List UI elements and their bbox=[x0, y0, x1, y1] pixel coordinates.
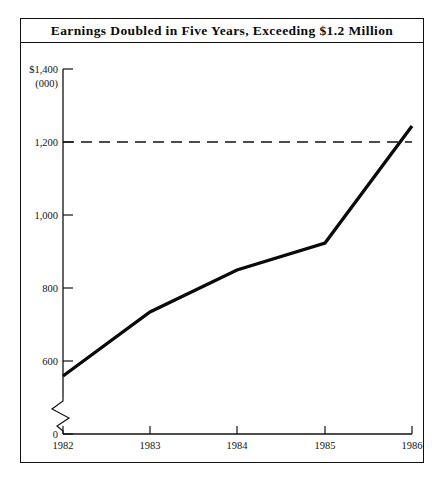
y-axis-label-1000: 1,000 bbox=[34, 210, 58, 221]
x-axis-label-1985: 1985 bbox=[315, 440, 336, 451]
y-axis-label-800: 800 bbox=[42, 283, 58, 294]
x-tick-marks bbox=[63, 426, 412, 434]
x-tick-labels: 1982 1983 1984 1985 1986 bbox=[53, 440, 423, 451]
y-axis-label-1200: 1,200 bbox=[34, 137, 58, 148]
x-axis-label-1986: 1986 bbox=[402, 440, 423, 451]
plot-area: $1,400 (000) 1,200 1,000 800 600 0 1982 … bbox=[21, 43, 425, 463]
earnings-data-line bbox=[63, 126, 412, 376]
y-axis-label-0: 0 bbox=[53, 429, 58, 440]
chart-title-bar: Earnings Doubled in Five Years, Exceedin… bbox=[21, 19, 423, 43]
y-axis-unit-note: (000) bbox=[35, 78, 58, 90]
y-tick-marks bbox=[63, 69, 73, 434]
y-axis-label-600: 600 bbox=[42, 356, 58, 367]
y-axis-label-1400: $1,400 bbox=[29, 64, 58, 75]
line-chart-svg: $1,400 (000) 1,200 1,000 800 600 0 1982 … bbox=[21, 43, 425, 463]
page-title: Earnings Doubled in Five Years, Exceedin… bbox=[51, 23, 394, 39]
y-tick-labels: $1,400 (000) 1,200 1,000 800 600 0 bbox=[29, 64, 58, 440]
x-axis-label-1984: 1984 bbox=[227, 440, 249, 451]
x-axis-label-1982: 1982 bbox=[53, 440, 74, 451]
x-axis-label-1983: 1983 bbox=[140, 440, 161, 451]
chart-figure: Earnings Doubled in Five Years, Exceedin… bbox=[20, 18, 424, 463]
axes-group bbox=[52, 69, 412, 434]
